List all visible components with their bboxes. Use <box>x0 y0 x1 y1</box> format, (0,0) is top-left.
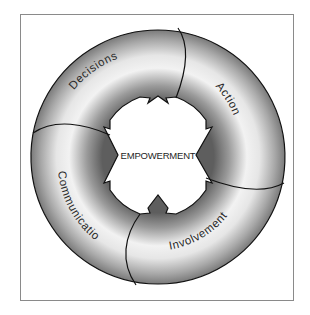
center-label-empowerment: EMPOWERMENT <box>121 150 196 161</box>
empowerment-cycle-diagram: Decisions Action Involvement Communicati… <box>0 0 310 315</box>
